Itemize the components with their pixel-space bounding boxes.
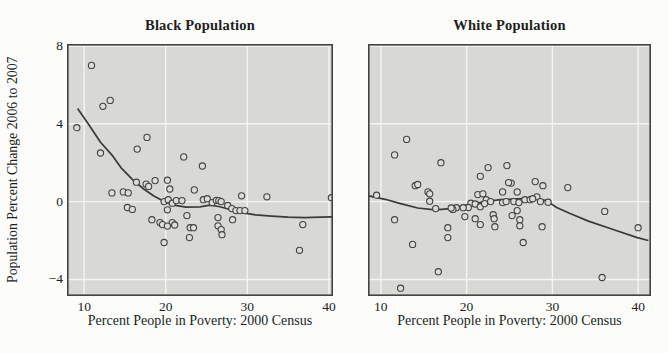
- data-point: [199, 163, 205, 169]
- data-point: [129, 206, 135, 212]
- data-point: [415, 181, 421, 187]
- data-point: [218, 199, 224, 205]
- data-point: [146, 183, 152, 189]
- data-point: [485, 165, 491, 171]
- data-point: [537, 199, 543, 205]
- x-tick-label: 20: [451, 299, 483, 314]
- data-point: [427, 191, 433, 197]
- data-point: [480, 191, 486, 197]
- data-point: [565, 185, 571, 191]
- data-point: [184, 213, 190, 219]
- panel-background: [67, 44, 333, 296]
- data-point: [472, 216, 478, 222]
- data-point: [109, 190, 115, 196]
- data-point: [506, 180, 512, 186]
- data-point: [545, 199, 551, 205]
- data-point: [410, 241, 416, 247]
- data-point: [125, 190, 131, 196]
- data-point: [602, 208, 608, 214]
- data-point: [242, 208, 248, 214]
- data-point: [144, 134, 150, 140]
- data-point: [97, 150, 103, 156]
- data-point: [488, 199, 494, 205]
- panel-background: [368, 44, 651, 296]
- data-point: [190, 225, 196, 231]
- data-point: [164, 177, 170, 183]
- data-point: [539, 224, 545, 230]
- y-tick-label: 0: [36, 194, 63, 209]
- data-point: [374, 192, 380, 198]
- x-tick-label: 10: [365, 299, 397, 314]
- data-point: [438, 160, 444, 166]
- data-point: [88, 62, 94, 68]
- data-point: [530, 196, 536, 202]
- data-point: [445, 225, 451, 231]
- data-point: [460, 205, 466, 211]
- data-point: [300, 222, 306, 228]
- data-point: [509, 213, 515, 219]
- data-point: [514, 208, 520, 214]
- data-point: [492, 224, 498, 230]
- data-point: [520, 239, 526, 245]
- data-point: [477, 173, 483, 179]
- data-point: [239, 193, 245, 199]
- panel-title-white: White Population: [368, 17, 651, 34]
- scatter-panel-white: [368, 44, 651, 296]
- data-point: [462, 214, 468, 220]
- data-point: [161, 239, 167, 245]
- data-point: [433, 206, 439, 212]
- data-point: [107, 97, 113, 103]
- data-point: [179, 198, 185, 204]
- x-tick-label: 10: [68, 299, 100, 314]
- data-point: [540, 183, 546, 189]
- data-point: [215, 215, 221, 221]
- data-point: [191, 187, 197, 193]
- x-tick-label: 20: [150, 299, 182, 314]
- scatter-panel-black: [67, 44, 333, 296]
- data-point: [491, 216, 497, 222]
- data-point: [264, 194, 270, 200]
- data-point: [500, 189, 506, 195]
- panel-title-black: Black Population: [67, 17, 333, 34]
- data-point: [186, 235, 192, 241]
- data-point: [517, 223, 523, 229]
- data-point: [503, 199, 509, 205]
- data-point: [445, 235, 451, 241]
- data-point: [532, 179, 538, 185]
- data-point: [514, 189, 520, 195]
- y-tick-label: 4: [36, 116, 63, 131]
- data-point: [427, 198, 433, 204]
- data-point: [100, 103, 106, 109]
- y-axis-label: Population Percent Change 2006 to 2007: [3, 44, 23, 296]
- data-point: [504, 163, 510, 169]
- data-point: [392, 217, 398, 223]
- x-axis-label-black: Percent People in Poverty: 2000 Census: [67, 313, 333, 329]
- y-tick-label: 8: [36, 38, 63, 53]
- data-point: [599, 274, 605, 280]
- data-point: [167, 186, 173, 192]
- data-point: [448, 205, 454, 211]
- x-axis-label-white: Percent People in Poverty: 2000 Census: [368, 313, 651, 329]
- x-tick-label: 30: [536, 299, 568, 314]
- data-point: [149, 217, 155, 223]
- data-point: [164, 207, 170, 213]
- x-tick-label: 40: [622, 299, 654, 314]
- data-point: [152, 178, 158, 184]
- data-point: [635, 225, 641, 231]
- data-point: [134, 146, 140, 152]
- data-point: [219, 232, 225, 238]
- x-tick-label: 40: [313, 299, 345, 314]
- data-point: [516, 200, 522, 206]
- data-point: [477, 222, 483, 228]
- data-point: [181, 154, 187, 160]
- data-point: [517, 217, 523, 223]
- data-point: [392, 152, 398, 158]
- data-point: [398, 285, 404, 291]
- data-point: [435, 269, 441, 275]
- data-point: [404, 136, 410, 142]
- data-point: [74, 125, 80, 131]
- data-point: [482, 201, 488, 207]
- y-tick-label: −4: [36, 271, 63, 286]
- data-point: [230, 217, 236, 223]
- figure: Black Population White Population Popula…: [0, 0, 668, 353]
